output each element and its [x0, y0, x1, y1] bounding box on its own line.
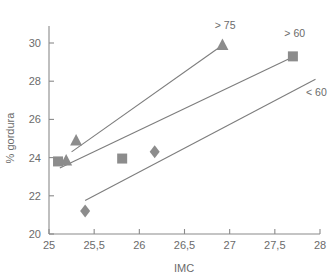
y-tick-label: 30 — [29, 37, 41, 49]
data-point-square — [53, 156, 63, 166]
data-point-triangle — [70, 134, 82, 146]
series-label-75: > 75 — [215, 19, 236, 31]
regression-line-60 — [60, 58, 290, 168]
x-tick-label: 25 — [43, 239, 55, 251]
chart-container: 2525,52626,52727,528 202224262830 > 75> … — [0, 0, 336, 278]
x-tick-label: 25,5 — [83, 239, 104, 251]
x-axis-title: IMC — [174, 262, 194, 274]
x-tick-label: 28 — [314, 239, 326, 251]
x-tick-label: 27 — [224, 239, 236, 251]
data-point-diamond — [150, 145, 160, 158]
regression-line-75 — [72, 48, 219, 152]
x-tick-label: 26 — [133, 239, 145, 251]
y-tick-label: 26 — [29, 113, 41, 125]
x-tick-label: 27,5 — [264, 239, 285, 251]
y-tick-label: 20 — [29, 228, 41, 240]
series-label-60: > 60 — [284, 27, 305, 39]
data-point-square — [117, 154, 127, 164]
series-label-60: < 60 — [306, 86, 327, 98]
y-tick-label: 22 — [29, 190, 41, 202]
data-point-triangle — [216, 38, 228, 50]
data-point-square — [288, 51, 298, 61]
x-tick-label: 26,5 — [174, 239, 195, 251]
data-point-diamond — [80, 205, 90, 218]
y-tick-label: 24 — [29, 152, 41, 164]
y-axis-title: % gordura — [4, 112, 16, 164]
axes — [49, 26, 320, 234]
y-axis-ticks: 202224262830 — [29, 37, 54, 240]
x-axis-ticks: 2525,52626,52727,528 — [43, 229, 326, 251]
regression-lines — [60, 48, 316, 201]
scatter-plot: 2525,52626,52727,528 202224262830 > 75> … — [0, 0, 336, 278]
y-tick-label: 28 — [29, 75, 41, 87]
data-markers — [53, 38, 298, 217]
